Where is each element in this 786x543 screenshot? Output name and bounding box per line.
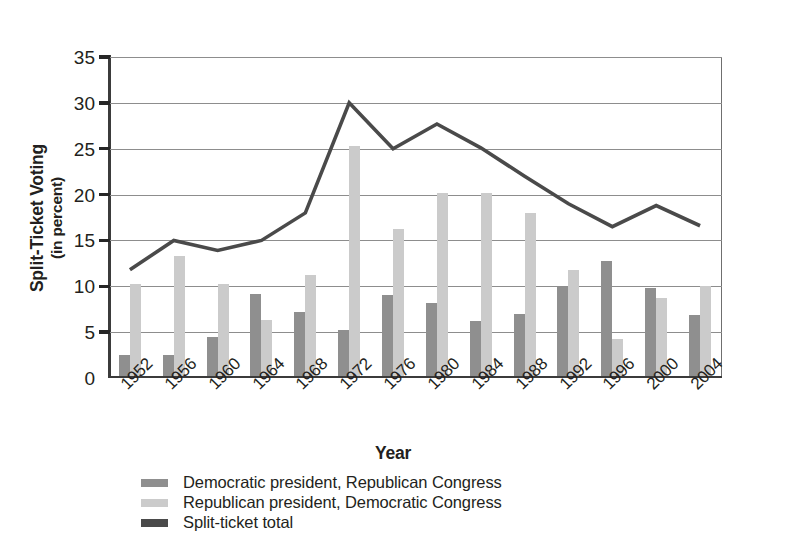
bar-group <box>371 57 415 376</box>
legend-item: Republican president, Democratic Congres… <box>141 493 502 512</box>
legend-item: Democratic president, Republican Congres… <box>141 473 502 492</box>
bar-democratic-president <box>250 294 261 376</box>
bar-group <box>634 57 678 376</box>
bar-republican-president <box>481 193 492 376</box>
y-axis-title-line1: Split-Ticket Voting <box>27 143 47 291</box>
y-axis-tick-label: 0 <box>84 369 95 388</box>
y-axis-tick-label: 25 <box>74 139 95 158</box>
x-axis-title: Year <box>0 443 786 464</box>
bar-group <box>327 57 371 376</box>
bar-groups <box>108 57 722 376</box>
bar-group <box>459 57 503 376</box>
y-axis-tick-label: 30 <box>74 93 95 112</box>
bar-democratic-president <box>294 312 305 375</box>
legend-swatch <box>141 499 168 507</box>
legend-item: Split-ticket total <box>141 513 502 532</box>
bar-democratic-president <box>601 261 612 376</box>
bar-group <box>590 57 634 376</box>
bar-republican-president <box>393 229 404 376</box>
x-axis-tick-labels: 1952195619601964196819721976198019841988… <box>108 380 722 438</box>
bar-group <box>415 57 459 376</box>
bar-group <box>547 57 591 376</box>
y-axis-tick-label: 15 <box>74 231 95 250</box>
bar-republican-president <box>349 146 360 375</box>
legend-label: Split-ticket total <box>183 514 293 531</box>
bar-republican-president <box>437 193 448 376</box>
bar-republican-president <box>525 213 536 375</box>
bar-group <box>283 57 327 376</box>
bar-group <box>196 57 240 376</box>
bar-group <box>678 57 722 376</box>
y-axis-title: Split-Ticket Voting (in percent) <box>16 57 76 378</box>
legend-swatch <box>141 479 168 487</box>
y-axis-tick-label: 35 <box>74 48 95 67</box>
y-axis-tick-label: 5 <box>84 323 95 342</box>
bar-group <box>152 57 196 376</box>
bar-democratic-president <box>426 303 437 375</box>
bar-group <box>503 57 547 376</box>
y-axis-tick-label: 20 <box>74 185 95 204</box>
chart-legend: Democratic president, Republican Congres… <box>141 473 502 533</box>
y-axis-tick-label: 10 <box>74 277 95 296</box>
bar-democratic-president <box>689 315 700 376</box>
bar-democratic-president <box>557 287 568 376</box>
bar-democratic-president <box>382 295 393 376</box>
legend-label: Republican president, Democratic Congres… <box>183 494 502 511</box>
y-axis-title-line2: (in percent) <box>47 143 64 291</box>
bar-democratic-president <box>645 288 656 375</box>
legend-swatch <box>141 519 168 527</box>
chart-figure: Split-Ticket Voting (in percent) 0510152… <box>0 0 786 543</box>
plot-area: 05101520253035 <box>108 57 722 378</box>
bar-democratic-president <box>514 314 525 375</box>
bar-group <box>108 57 152 376</box>
legend-label: Democratic president, Republican Congres… <box>183 474 502 491</box>
bar-group <box>240 57 284 376</box>
